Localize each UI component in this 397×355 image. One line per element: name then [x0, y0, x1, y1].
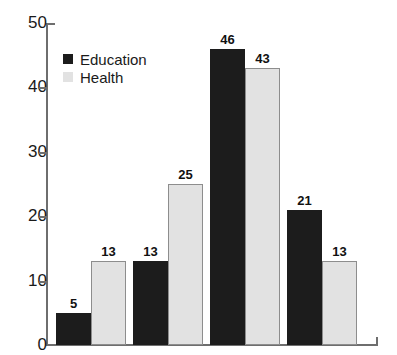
bar-value-label: 46 — [220, 33, 234, 46]
chart-legend: Education Health — [63, 50, 147, 86]
bar-health-1: 13 — [91, 261, 126, 345]
y-axis-tick-label: 50 — [13, 14, 47, 31]
bar-chart: 50403020100 513132546432113 Education He… — [0, 0, 397, 355]
bar-value-label: 25 — [178, 168, 192, 181]
bar-value-label: 13 — [101, 245, 115, 258]
legend-swatch-education-icon — [63, 54, 73, 64]
bar-health-2: 25 — [168, 184, 203, 345]
bar-health-4: 13 — [322, 261, 357, 345]
bar-education-2: 13 — [133, 261, 168, 345]
bar-education-1: 5 — [56, 313, 91, 345]
bar-value-label: 13 — [332, 245, 346, 258]
legend-label-health: Health — [80, 70, 123, 85]
bar-value-label: 13 — [143, 245, 157, 258]
bar-value-label: 21 — [297, 194, 311, 207]
bar-value-label: 43 — [255, 52, 269, 65]
legend-item-education: Education — [63, 50, 147, 68]
legend-swatch-health-icon — [63, 72, 73, 82]
y-axis-tick-label: 0 — [13, 336, 47, 353]
bar-education-4: 21 — [287, 210, 322, 345]
bar-health-3: 43 — [245, 68, 280, 345]
bar-value-label: 5 — [70, 297, 77, 310]
bar-education-3: 46 — [210, 49, 245, 345]
legend-item-health: Health — [63, 68, 147, 86]
legend-label-education: Education — [80, 52, 147, 67]
